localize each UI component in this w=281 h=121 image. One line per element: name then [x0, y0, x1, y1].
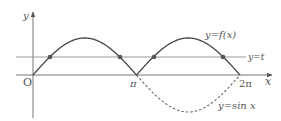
y-axis-label: y	[22, 10, 29, 21]
label-y-equals-t: y=t	[247, 52, 265, 62]
graph-diagram: y x O π 2π y=f(x) y=t y=sin x	[0, 0, 281, 121]
label-y-equals-f-of-x: y=f(x)	[204, 29, 236, 40]
x-axis-label: x	[265, 75, 272, 88]
tick-label-2pi: 2π	[239, 78, 252, 89]
graph-canvas: y x O π 2π y=f(x) y=t y=sin x	[0, 0, 281, 121]
origin-label: O	[23, 76, 32, 89]
tick-label-pi: π	[129, 78, 137, 89]
intersection-dot-4	[221, 55, 226, 60]
intersection-dot-2	[118, 55, 123, 60]
intersection-dot-3	[152, 55, 157, 60]
intersection-dot-1	[48, 55, 53, 60]
label-y-equals-sin-x: y=sin x	[217, 100, 256, 111]
